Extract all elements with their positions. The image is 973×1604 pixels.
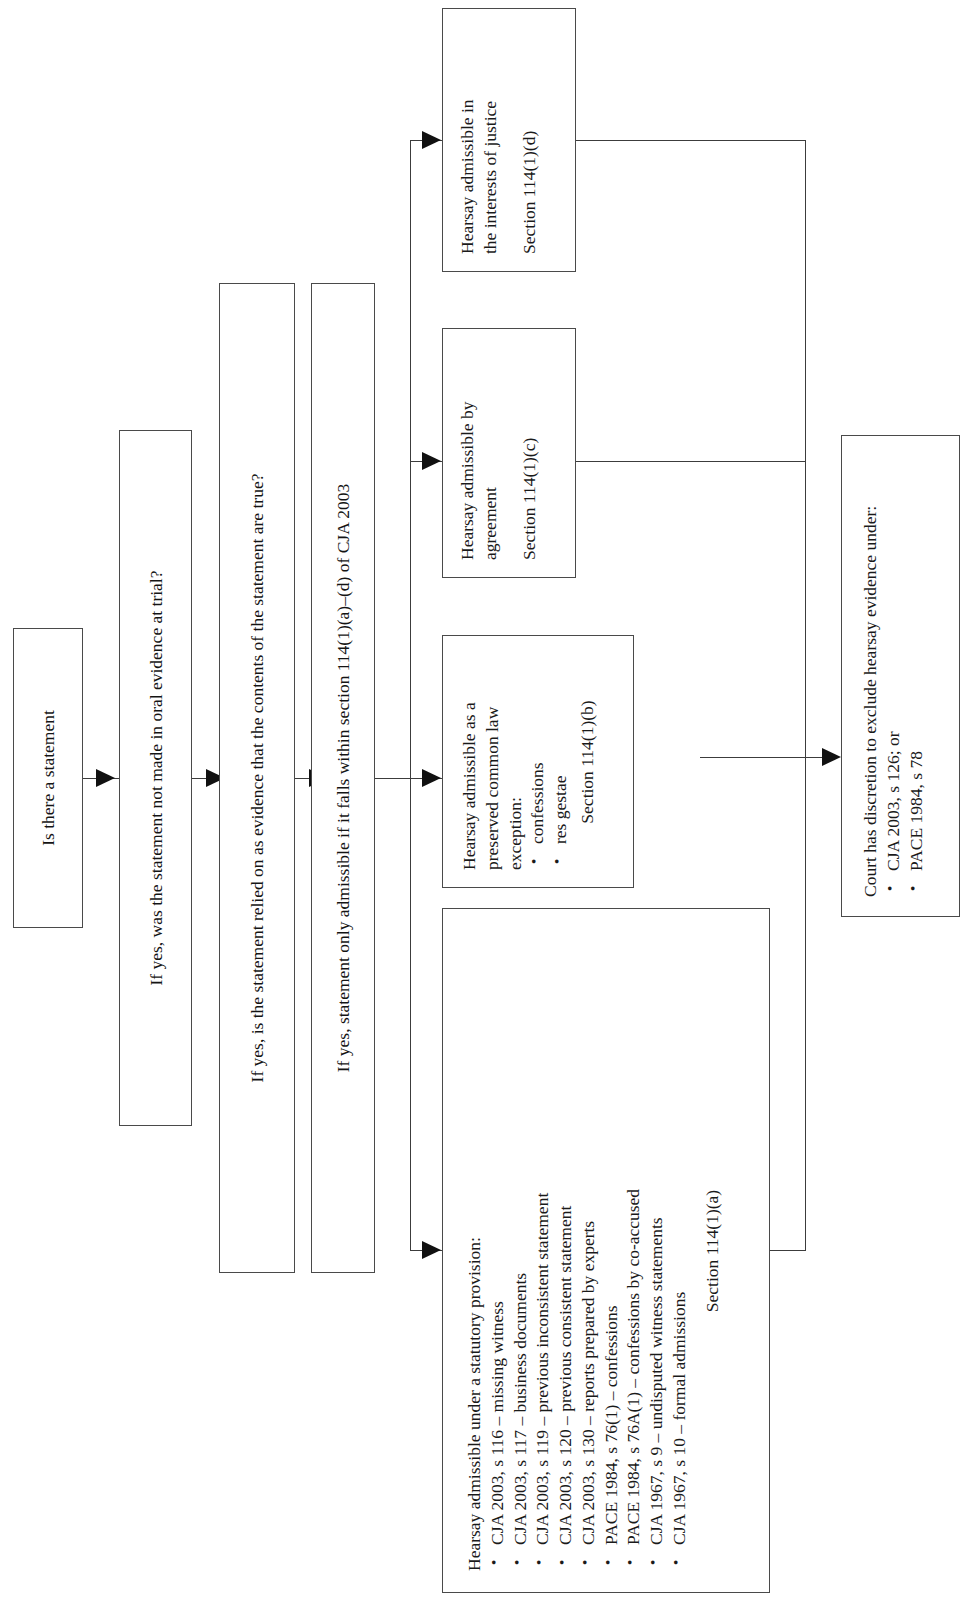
- node-branch-c-agreement[interactable]: Hearsay admissible by agreement Section …: [442, 328, 576, 578]
- list-item: CJA 1967, s 9 – undisputed witness state…: [645, 931, 668, 1571]
- list-item: CJA 2003, s 117 – business documents: [508, 931, 531, 1571]
- list-item: PACE 1984, s 76(1) – confessions: [599, 931, 622, 1571]
- merge-spine: [805, 140, 806, 1251]
- flowchart-canvas: Is there a statement If yes, was the sta…: [0, 0, 973, 1604]
- list-item: PACE 1984, s 78: [904, 455, 927, 897]
- branch-a-bullets: CJA 2003, s 116 – missing witness CJA 20…: [485, 931, 690, 1571]
- branch-a-lead: Hearsay admissible under a statutory pro…: [463, 931, 486, 1571]
- branch-c-line2: agreement: [479, 346, 502, 560]
- branch-c-reference: Section 114(1)(c): [518, 346, 541, 560]
- branch-a-reference: Section 114(1)(a): [700, 931, 723, 1571]
- list-item: CJA 2003, s 130 – reports prepared by ex…: [576, 931, 599, 1571]
- branch-b-bullets: confessions res gestae: [526, 654, 572, 870]
- node-branch-b-common-law[interactable]: Hearsay admissible as a preserved common…: [442, 635, 634, 888]
- arrowhead-step1-step2: [96, 769, 115, 787]
- node-step2[interactable]: If yes, was the statement not made in or…: [119, 430, 192, 1126]
- node-step4[interactable]: If yes, statement only admissible if it …: [311, 283, 375, 1273]
- node-outcome-court-discretion[interactable]: Court has discretion to exclude hearsay …: [841, 435, 960, 917]
- node-step3-label: If yes, is the statement relied on as ev…: [246, 291, 268, 1266]
- arrowhead-branch-b: [422, 769, 441, 787]
- arrowhead-outcome: [822, 748, 841, 766]
- arrowhead-branch-c: [422, 452, 441, 470]
- branch-b-reference: Section 114(1)(b): [576, 654, 599, 870]
- list-item: res gestae: [549, 654, 572, 870]
- list-item: CJA 2003, s 116 – missing witness: [485, 931, 508, 1571]
- branch-spine: [410, 140, 411, 1251]
- list-item: CJA 2003, s 120 – previous consistent st…: [554, 931, 577, 1571]
- arrowhead-branch-d: [422, 131, 441, 149]
- list-item: confessions: [526, 654, 549, 870]
- outcome-lead: Court has discretion to exclude hearsay …: [859, 455, 882, 897]
- connector-branch-d-to-merge: [576, 140, 806, 141]
- connector-branch-c-to-merge: [576, 461, 806, 462]
- node-branch-d-interests-of-justice[interactable]: Hearsay admissible in the interests of j…: [442, 8, 576, 272]
- node-step1[interactable]: Is there a statement: [13, 628, 83, 928]
- list-item: CJA 2003, s 126; or: [881, 455, 904, 897]
- node-step3[interactable]: If yes, is the statement relied on as ev…: [219, 283, 295, 1273]
- node-branch-a-statutory[interactable]: Hearsay admissible under a statutory pro…: [442, 908, 770, 1593]
- list-item: PACE 1984, s 76A(1) – confessions by co-…: [622, 931, 645, 1571]
- outcome-bullets: CJA 2003, s 126; or PACE 1984, s 78: [881, 455, 927, 897]
- branch-b-lead: Hearsay admissible as a preserved common…: [458, 692, 526, 870]
- branch-d-line2: the interests of justice: [479, 26, 502, 254]
- connector-step4-to-spine: [375, 778, 411, 779]
- list-item: CJA 2003, s 119 – previous inconsistent …: [531, 931, 554, 1571]
- node-step4-label: If yes, statement only admissible if it …: [332, 291, 354, 1266]
- branch-d-line1: Hearsay admissible in: [456, 26, 479, 254]
- connector-branch-a-to-merge: [770, 1250, 806, 1251]
- connector-merge-to-outcome: [700, 757, 839, 758]
- branch-c-line1: Hearsay admissible by: [456, 346, 479, 560]
- node-step2-label: If yes, was the statement not made in or…: [144, 438, 166, 1118]
- list-item: CJA 1967, s 10 – formal admissions: [667, 931, 690, 1571]
- branch-d-reference: Section 114(1)(d): [518, 26, 541, 254]
- arrowhead-branch-a: [422, 1241, 441, 1259]
- node-step1-label: Is there a statement: [37, 638, 59, 918]
